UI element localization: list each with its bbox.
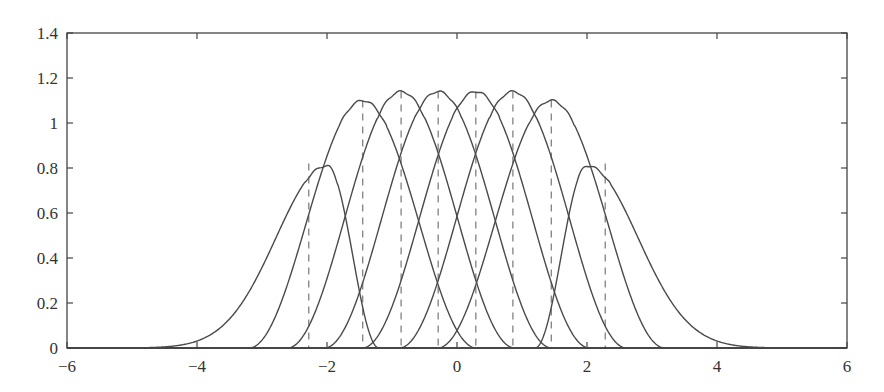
y-tick-label: 0.8 xyxy=(37,159,58,178)
plot-frame xyxy=(67,33,847,348)
x-tick-label: −6 xyxy=(58,357,76,376)
density-curve xyxy=(67,100,847,348)
y-tick-label: 1.2 xyxy=(37,69,58,88)
density-curve xyxy=(67,166,847,348)
density-curve xyxy=(67,92,847,348)
chart: −6−4−20246 00.20.40.60.811.21.4 xyxy=(0,0,884,392)
y-tick-label: 0.2 xyxy=(37,294,58,313)
x-tick-label: 6 xyxy=(843,357,852,376)
x-tick-label: 2 xyxy=(583,357,592,376)
density-curve xyxy=(67,165,847,348)
density-curve xyxy=(67,91,847,348)
density-curve xyxy=(67,100,847,348)
y-tick-label: 0.6 xyxy=(37,204,58,223)
curves xyxy=(67,91,847,348)
density-curve xyxy=(67,91,847,348)
x-tick-label: −2 xyxy=(318,357,336,376)
y-axis: 00.20.40.60.811.21.4 xyxy=(37,24,847,358)
x-tick-label: 0 xyxy=(453,357,462,376)
density-curve xyxy=(67,91,847,348)
y-tick-label: 1.4 xyxy=(37,24,59,43)
y-tick-label: 0 xyxy=(50,339,59,358)
x-tick-label: 4 xyxy=(713,357,722,376)
x-tick-label: −4 xyxy=(188,357,207,376)
y-tick-label: 0.4 xyxy=(37,249,59,268)
y-tick-label: 1 xyxy=(50,114,59,133)
